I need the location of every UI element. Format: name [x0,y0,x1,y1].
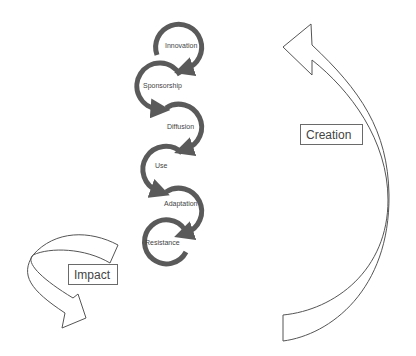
cycle-arrows [137,24,202,264]
stage-label-innovation: Innovation [165,42,197,49]
creation-curved-arrow-icon [283,24,389,341]
creation-label: Creation [306,128,351,142]
stage-label-adaptation: Adaptation [164,200,198,208]
creation-label-box: Creation [300,124,363,145]
stage-label-resistance: Resistance [145,239,180,246]
diagram-canvas: Innovation Sponsorship Diffusion Use Ada… [0,0,416,356]
impact-label: Impact [74,268,110,282]
stage-label-sponsorship: Sponsorship [143,82,182,90]
stage-label-diffusion: Diffusion [167,123,194,130]
stage-label-use: Use [155,162,168,169]
impact-label-box: Impact [68,264,118,285]
